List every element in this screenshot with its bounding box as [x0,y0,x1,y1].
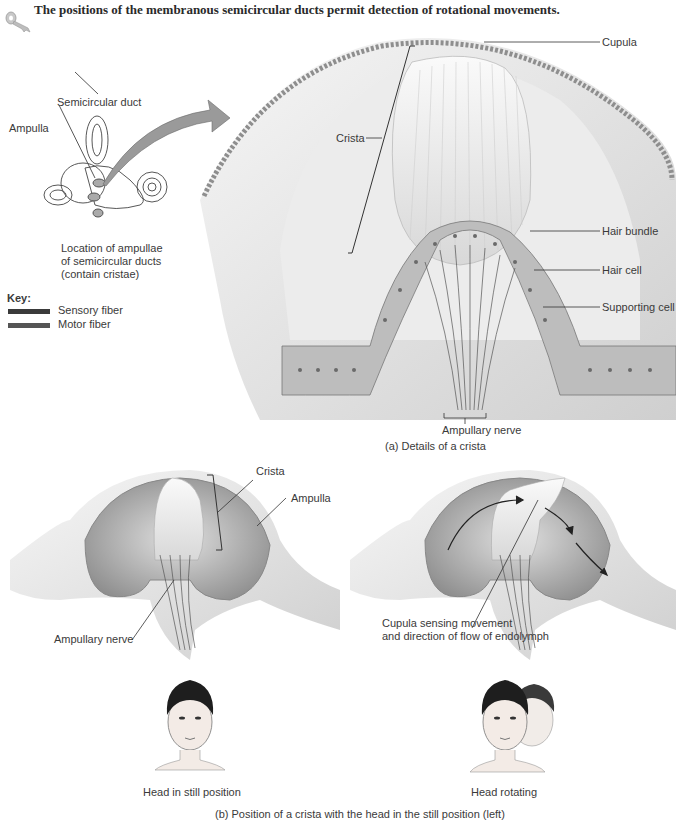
label-crista-b: Crista [256,465,285,478]
inset-caption-line-3: (contain cristae) [61,268,139,281]
label-cupula: Cupula [602,36,637,49]
label-ampullary-nerve-b: Ampullary nerve [54,633,133,646]
key-swatch-motor [8,323,50,328]
caption-a: (a) Details of a crista [385,440,486,452]
key-label-sensory: Sensory fiber [58,304,123,317]
inset-caption-line-1: Location of ampullae [61,242,163,255]
inset-caption-line-2: of semicircular ducts [61,255,161,268]
key-swatch-sensory [8,309,50,314]
caption-b: (b) Position of a crista with the head i… [215,808,505,820]
key-heading: Key: [7,292,31,305]
label-hair-bundle: Hair bundle [602,225,658,238]
caption-head-still: Head in still position [143,786,241,798]
label-cupula-sensing-line-2: and direction of flow of endolymph [382,630,549,643]
label-ampulla-b: Ampulla [291,492,331,505]
label-crista-a: Crista [336,132,365,145]
label-cupula-sensing-line-1: Cupula sensing movement [382,617,512,630]
head-rotating-illustration [470,680,554,772]
caption-head-rotating: Head rotating [471,786,537,798]
head-still-illustration [155,680,225,770]
label-ampullary-nerve-a: Ampullary nerve [442,424,521,437]
label-semicircular-duct: Semicircular duct [57,96,141,109]
label-ampulla-inset: Ampulla [9,122,49,135]
key-label-motor: Motor fiber [58,318,111,331]
label-supporting-cell: Supporting cell [602,301,675,314]
label-hair-cell: Hair cell [602,264,642,277]
